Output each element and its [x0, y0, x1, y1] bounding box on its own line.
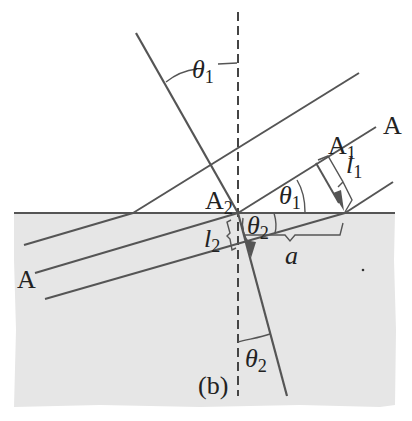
theta1-top-arc-right: [218, 63, 237, 64]
subscript: 1: [353, 162, 362, 182]
label-l2: l2: [204, 226, 220, 255]
label-l1: l1: [346, 152, 362, 181]
subscript: 2: [260, 223, 269, 243]
label-theta2-mid: θ2: [247, 213, 269, 242]
theta-symbol: θ: [192, 55, 205, 84]
label-a: a: [285, 243, 298, 269]
wavefront-upper-3: [345, 182, 393, 213]
label-A-right: A: [383, 113, 402, 139]
subscript: 1: [292, 193, 301, 213]
theta-symbol: θ: [245, 344, 258, 373]
A1-base: A: [328, 131, 347, 160]
l1-arrow-head-icon: [333, 190, 344, 211]
label-A2: A2: [205, 188, 233, 217]
subscript: 2: [224, 198, 233, 218]
label-theta1-mid: θ1: [279, 183, 301, 212]
figure-caption: (b): [198, 373, 228, 399]
label-A-left: A: [17, 267, 36, 293]
theta-symbol: θ: [279, 181, 292, 210]
theta-symbol: θ: [247, 211, 260, 240]
subscript: 2: [258, 356, 267, 376]
wavefront-upper-1: [133, 73, 359, 213]
label-theta1-top: θ1: [192, 57, 214, 86]
A2-base: A: [205, 186, 224, 215]
marker-dot: [362, 269, 365, 272]
subscript: 2: [211, 236, 220, 256]
subscript: 1: [205, 67, 214, 87]
label-theta2-bottom: θ2: [245, 346, 267, 375]
